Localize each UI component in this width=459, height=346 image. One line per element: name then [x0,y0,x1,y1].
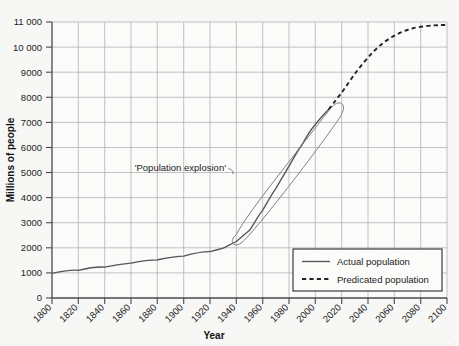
chart-page: 11 000 10 000 9000 8000 7000 6000 5000 4… [0,0,459,346]
x-tick-label: 1920 [189,302,212,325]
y-tick-label: 3000 [21,217,42,228]
x-axis-title: Year [203,330,224,341]
y-tick-label: 7000 [21,117,42,128]
x-tick-label: 2040 [347,302,370,325]
population-growth-chart: 11 000 10 000 9000 8000 7000 6000 5000 4… [0,0,459,346]
y-tick-label: 8000 [21,92,42,103]
x-tick-label: 2000 [294,302,317,325]
y-axis-ticks [46,22,52,298]
y-tick-label: 11 000 [14,16,42,27]
x-tick-label: 1880 [136,302,159,325]
chart-legend[interactable]: Actual population Predicated population [293,249,442,291]
x-tick-label: 2060 [373,302,396,325]
y-tick-label: 6000 [21,142,42,153]
x-tick-label: 1820 [57,302,80,325]
x-tick-label: 2020 [320,302,343,325]
x-tick-label: 1980 [268,302,291,325]
y-axis-title: Millions of people [5,117,16,202]
annotation-population-explosion: 'Population explosion' [135,162,226,173]
y-tick-label: 4000 [21,192,42,203]
legend-label-predicated-population: Predicated population [337,274,429,285]
y-axis-tick-labels: 11 000 10 000 9000 8000 7000 6000 5000 4… [13,16,42,303]
x-tick-label: 1940 [215,302,238,325]
y-tick-label: 5000 [21,167,42,178]
y-tick-label: 0 [37,292,42,303]
y-tick-label: 2000 [21,242,42,253]
x-tick-label: 1800 [31,302,54,325]
legend-label-actual-population: Actual population [337,256,410,267]
y-tick-label: 1000 [21,267,42,278]
x-tick-label: 2100 [426,302,449,325]
x-tick-label: 1960 [241,302,264,325]
y-tick-label: 10 000 [13,42,42,53]
x-tick-label: 1840 [83,302,106,325]
x-tick-label: 1900 [162,302,185,325]
x-tick-label: 2080 [399,302,422,325]
y-tick-label: 9000 [21,67,42,78]
x-axis-tick-labels: 1800 1820 1840 1860 1880 1900 1920 1940 … [31,302,449,325]
x-tick-label: 1860 [110,302,133,325]
